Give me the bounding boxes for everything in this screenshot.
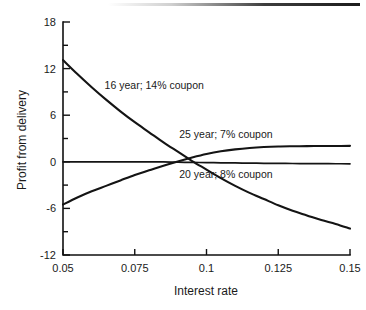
x-tick-label: 0.05 [52,262,73,274]
series-label-3: 20 year; 8% coupon [179,168,273,180]
x-axis-tick-labels: 0.050.0750.10.1250.15 [52,262,360,274]
y-tick-label: -12 [40,249,56,261]
x-tick-label: 0.15 [339,262,360,274]
x-tick-label: 0.075 [121,262,149,274]
series-label-2: 25 year; 7% coupon [179,128,273,140]
x-axis-ticks [63,249,350,255]
y-tick-label: -6 [46,202,56,214]
profit-from-delivery-line-chart: 181260-6-12 0.050.0750.10.1250.15 16 yea… [0,0,366,310]
chart-figure: 181260-6-12 0.050.0750.10.1250.15 16 yea… [0,0,366,310]
series-label-1: 16 year; 14% coupon [105,79,204,91]
y-axis-title: Profit from delivery [15,90,29,190]
y-tick-label: 12 [44,63,56,75]
y-tick-label: 6 [50,109,56,121]
y-axis-tick-labels: 181260-6-12 [40,16,56,261]
series-annotations: 16 year; 14% coupon25 year; 7% coupon20 … [105,79,273,180]
x-tick-label: 0.125 [264,262,292,274]
series-curve-3 [63,162,350,164]
x-tick-label: 0.1 [199,262,214,274]
y-tick-label: 0 [50,156,56,168]
y-tick-label: 18 [44,16,56,28]
y-axis-ticks [63,22,70,255]
x-axis-title: Interest rate [174,284,238,298]
